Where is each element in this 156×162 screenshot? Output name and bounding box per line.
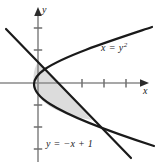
x-axis-label: x xyxy=(143,85,147,96)
line-equation-label: y = −x + 1 xyxy=(46,138,93,149)
parabola-equation-label: x = y2 xyxy=(101,41,128,53)
parabola-exponent: 2 xyxy=(124,41,128,49)
math-figure: x y x = y2 y = −x + 1 xyxy=(0,0,156,162)
y-axis-label: y xyxy=(42,4,46,15)
x-axis xyxy=(0,79,149,88)
parabola-equation-text: x = y xyxy=(101,42,124,53)
